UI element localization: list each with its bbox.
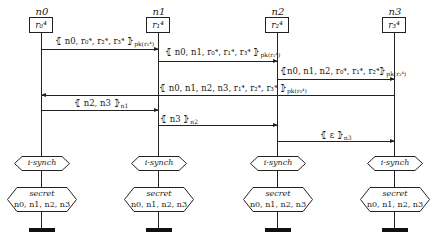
message-label: ⦃ n0, n1, r₀⁴, r₁⁴, r₃⁴ ⦄pk(r₂⁴): [165, 47, 280, 58]
message-key: pk(r₂⁴): [260, 51, 280, 58]
message-arrow: [278, 79, 394, 80]
message-arrow: [42, 110, 158, 111]
message-label: ⦃ n0, n1, n2, n3, r₁⁴, r₂⁴, r₃⁴ ⦄pk(r₀⁴): [159, 83, 307, 94]
claim-terms: n0, n1, n2, n3: [7, 200, 77, 209]
secret-claim-n1: secret n0, n1, n2, n3: [124, 187, 194, 212]
claim-terms: n0, n1, n2, n3: [243, 200, 313, 209]
secret-claim-n0: secret n0, n1, n2, n3: [7, 187, 77, 212]
message-key: n1: [121, 102, 129, 109]
isynch-claim-n2: i-synch: [250, 156, 306, 171]
message-text: ⦃ n0, n1, r₀⁴, r₁⁴, r₃⁴ ⦄: [165, 47, 260, 57]
message-key: pk(r₁⁴): [134, 40, 154, 47]
claim-title: secret: [243, 189, 313, 198]
lifeline-end-n2: [265, 228, 291, 232]
message-arrow: [159, 125, 277, 126]
message-key: n2: [190, 118, 198, 125]
claim-label: i-synch: [14, 158, 70, 167]
isynch-claim-n1: i-synch: [131, 156, 187, 171]
message-label: ⦃ ε ⦄n3: [320, 130, 352, 141]
claim-label: i-synch: [131, 158, 187, 167]
message-arrow: [278, 141, 394, 142]
lifeline-end-n3: [382, 228, 408, 232]
isynch-claim-n3: i-synch: [367, 156, 423, 171]
message-label: ⦃ n2, n3 ⦄n1: [74, 98, 128, 109]
message-label: ⦃ n0, r₀⁴, r₂⁴, r₃⁴ ⦄pk(r₁⁴): [55, 36, 154, 47]
message-key: pk(r₃⁴): [386, 70, 406, 77]
message-text: ⦃n0, n1, n2, r₀⁴, r₁⁴, r₂⁴⦄: [280, 66, 386, 76]
isynch-claim-n0: i-synch: [14, 156, 70, 171]
claim-title: secret: [360, 189, 430, 198]
message-arrow: [42, 49, 158, 50]
node-name-n2: n2: [263, 6, 293, 17]
message-key: n3: [344, 134, 352, 141]
claim-terms: n0, n1, n2, n3: [360, 200, 430, 209]
message-text: ⦃ n0, r₀⁴, r₂⁴, r₃⁴ ⦄: [55, 36, 134, 46]
node-state-n3: r₃⁴: [382, 17, 406, 33]
claim-title: secret: [7, 189, 77, 198]
node-name-n0: n0: [27, 6, 57, 17]
claim-label: i-synch: [367, 158, 423, 167]
lifeline-end-n0: [29, 228, 55, 232]
message-text: ⦃ n2, n3 ⦄: [74, 98, 121, 108]
claim-title: secret: [124, 189, 194, 198]
message-label: ⦃ n3 ⦄n2: [160, 114, 198, 125]
message-arrow: [159, 61, 277, 62]
message-text: ⦃ n3 ⦄: [160, 114, 190, 124]
node-name-n1: n1: [144, 6, 174, 17]
secret-claim-n2: secret n0, n1, n2, n3: [243, 187, 313, 212]
message-text: ⦃ ε ⦄: [320, 130, 344, 140]
lifeline-end-n1: [146, 228, 172, 232]
message-arrow: [42, 95, 394, 96]
secret-claim-n3: secret n0, n1, n2, n3: [360, 187, 430, 212]
node-state-n2: r₂⁴: [265, 17, 289, 33]
claim-terms: n0, n1, n2, n3: [124, 200, 194, 209]
claim-label: i-synch: [250, 158, 306, 167]
message-key: pk(r₀⁴): [287, 87, 307, 94]
node-state-n1: r₁⁴: [146, 17, 170, 33]
node-state-n0: r₀⁴: [29, 17, 53, 33]
node-name-n3: n3: [380, 6, 410, 17]
message-text: ⦃ n0, n1, n2, n3, r₁⁴, r₂⁴, r₃⁴ ⦄: [159, 83, 287, 93]
message-label: ⦃n0, n1, n2, r₀⁴, r₁⁴, r₂⁴⦄pk(r₃⁴): [280, 66, 406, 77]
